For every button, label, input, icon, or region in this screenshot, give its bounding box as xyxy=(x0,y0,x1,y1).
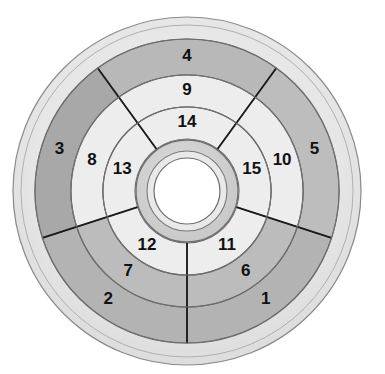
segment-label-15: 15 xyxy=(242,159,261,178)
ring-sector-wheel-diagram: 123456789101112131415 xyxy=(0,0,385,374)
segment-label-13: 13 xyxy=(113,159,132,178)
segment-label-8: 8 xyxy=(87,150,96,169)
segment-label-12: 12 xyxy=(138,235,157,254)
segment-label-2: 2 xyxy=(104,289,113,308)
segment-label-6: 6 xyxy=(241,261,250,280)
segment-label-4: 4 xyxy=(182,46,192,65)
segment-label-3: 3 xyxy=(55,139,64,158)
segment-label-5: 5 xyxy=(310,139,319,158)
segment-label-9: 9 xyxy=(182,80,191,99)
segment-label-1: 1 xyxy=(261,289,270,308)
segment-label-7: 7 xyxy=(123,261,132,280)
segment-label-10: 10 xyxy=(273,150,292,169)
figure-root: computer. Randomising the complete 12345… xyxy=(0,0,385,374)
segment-label-11: 11 xyxy=(218,235,236,254)
center-hole xyxy=(154,158,220,224)
segment-label-14: 14 xyxy=(178,112,197,131)
